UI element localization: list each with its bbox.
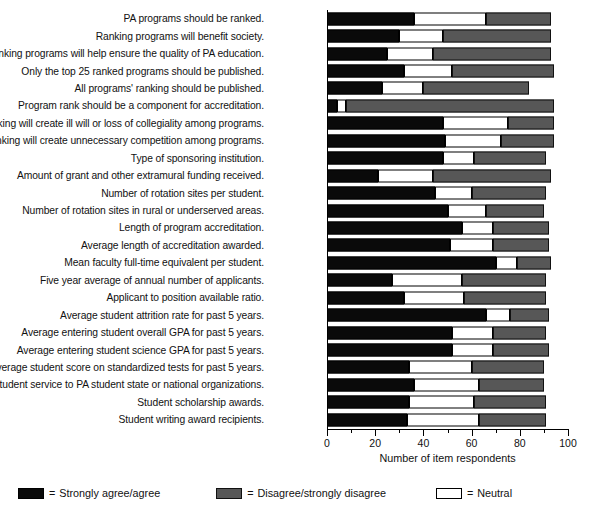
bar-segment-agree: [327, 117, 443, 130]
bar-segment-neutral: [414, 12, 486, 25]
category-label: Ranking will create ill will or loss of …: [0, 118, 268, 129]
category-label: Mean faculty full-time equivalent per st…: [0, 257, 268, 268]
bar-segment-disagree: [510, 309, 549, 322]
bar-segment-agree: [327, 12, 414, 25]
x-tick-major: [568, 429, 569, 436]
x-tick-minor: [351, 429, 352, 433]
bar-segment-disagree: [493, 239, 548, 252]
category-label: Applicant to position available ratio.: [0, 292, 268, 303]
category-label: Type of sponsoring institution.: [0, 153, 268, 164]
category-label: Average student attrition rate for past …: [0, 310, 268, 321]
bar-segment-agree: [327, 169, 378, 182]
x-tick-label: 80: [514, 437, 526, 449]
x-tick-minor: [399, 429, 400, 433]
bar-segment-neutral: [404, 65, 452, 78]
bar-segment-agree: [327, 47, 387, 60]
bar-segment-agree: [327, 413, 407, 426]
chart-legend: = Strongly agree/agree = Disagree/strong…: [18, 484, 578, 502]
stacked-bar: [327, 169, 568, 182]
chart-row: Mean faculty full-time equivalent per st…: [0, 254, 595, 271]
bar-segment-agree: [327, 187, 435, 200]
category-label: Program rank should be a component for a…: [0, 100, 268, 111]
category-label: PA programs should be ranked.: [0, 13, 268, 24]
category-label: Amount of grant and other extramural fun…: [0, 170, 268, 181]
bar-segment-disagree: [346, 99, 553, 112]
bar-segment-disagree: [479, 378, 544, 391]
bar-segment-neutral: [443, 152, 474, 165]
bar-segment-disagree: [452, 65, 553, 78]
x-tick-label: 60: [466, 437, 478, 449]
chart-row: Number of rotation sites per student.: [0, 184, 595, 201]
bar-segment-neutral: [407, 413, 479, 426]
chart-row: Five year average of annual number of ap…: [0, 272, 595, 289]
legend-swatch-disagree-icon: [216, 488, 242, 499]
bar-segment-disagree: [474, 152, 546, 165]
category-label: All programs' ranking should be publishe…: [0, 83, 268, 94]
legend-item-neutral: = Neutral: [436, 487, 512, 499]
x-tick-major: [327, 429, 328, 436]
category-label: Average entering student science GPA for…: [0, 345, 268, 356]
category-label: Length of program accreditation.: [0, 222, 268, 233]
bar-segment-agree: [327, 344, 452, 357]
x-axis-title: Number of item respondents: [327, 452, 568, 464]
stacked-bar: [327, 344, 568, 357]
bar-segment-disagree: [433, 169, 551, 182]
legend-swatch-neutral-icon: [436, 488, 462, 499]
bar-segment-agree: [327, 361, 409, 374]
chart-row: Average student score on standardized te…: [0, 359, 595, 376]
bar-segment-agree: [327, 396, 409, 409]
bar-segment-agree: [327, 204, 448, 217]
category-label: Average student score on standardized te…: [0, 362, 268, 373]
stacked-bar: [327, 82, 568, 95]
bar-segment-neutral: [414, 378, 479, 391]
category-label: Student scholarship awards.: [0, 397, 268, 408]
chart-row: Ranking will create ill will or loss of …: [0, 115, 595, 132]
stacked-bar: [327, 239, 568, 252]
bar-segment-agree: [327, 274, 392, 287]
bar-segment-disagree: [517, 256, 551, 269]
chart-row: Ranking programs will benefit society.: [0, 27, 595, 44]
bar-segment-disagree: [493, 344, 548, 357]
bar-segment-neutral: [382, 82, 423, 95]
x-tick-minor: [448, 429, 449, 433]
bar-segment-neutral: [486, 309, 510, 322]
category-label: Average entering student overall GPA for…: [0, 327, 268, 338]
legend-equals-agree: =: [49, 487, 55, 499]
bar-segment-agree: [327, 221, 462, 234]
x-tick-label: 0: [324, 437, 330, 449]
category-label: Only the top 25 ranked programs should b…: [0, 66, 268, 77]
bar-segment-disagree: [443, 30, 551, 43]
legend-swatch-agree-icon: [18, 488, 44, 499]
x-tick-major: [520, 429, 521, 436]
bar-segment-agree: [327, 134, 445, 147]
category-label: Number of rotation sites per student.: [0, 188, 268, 199]
x-tick-major: [472, 429, 473, 436]
x-tick-minor: [544, 429, 545, 433]
bar-segment-agree: [327, 326, 452, 339]
bar-segment-disagree: [493, 221, 548, 234]
x-tick-major: [423, 429, 424, 436]
bar-segment-neutral: [337, 99, 347, 112]
x-axis-group: 020406080100 Number of item respondents: [0, 429, 595, 430]
chart-row: Student writing award recipients.: [0, 411, 595, 428]
bar-segment-neutral: [387, 47, 433, 60]
stacked-bar: [327, 187, 568, 200]
bar-segment-disagree: [486, 12, 551, 25]
stacked-bar: [327, 413, 568, 426]
stacked-bar: [327, 99, 568, 112]
bar-segment-disagree: [508, 117, 554, 130]
chart-row: Length of program accreditation.: [0, 219, 595, 236]
stacked-bar: [327, 361, 568, 374]
bar-segment-disagree: [464, 291, 546, 304]
bar-segment-agree: [327, 378, 414, 391]
bar-segment-neutral: [404, 291, 464, 304]
chart-row: Student service to PA student state or n…: [0, 376, 595, 393]
legend-label-neutral: Neutral: [477, 487, 512, 499]
category-label: Five year average of annual number of ap…: [0, 275, 268, 286]
bar-segment-agree: [327, 99, 337, 112]
legend-equals-disagree: =: [247, 487, 253, 499]
stacked-bar: [327, 396, 568, 409]
chart-row: Ranking programs will help ensure the qu…: [0, 45, 595, 62]
bar-segment-neutral: [392, 274, 462, 287]
bar-segment-agree: [327, 309, 486, 322]
